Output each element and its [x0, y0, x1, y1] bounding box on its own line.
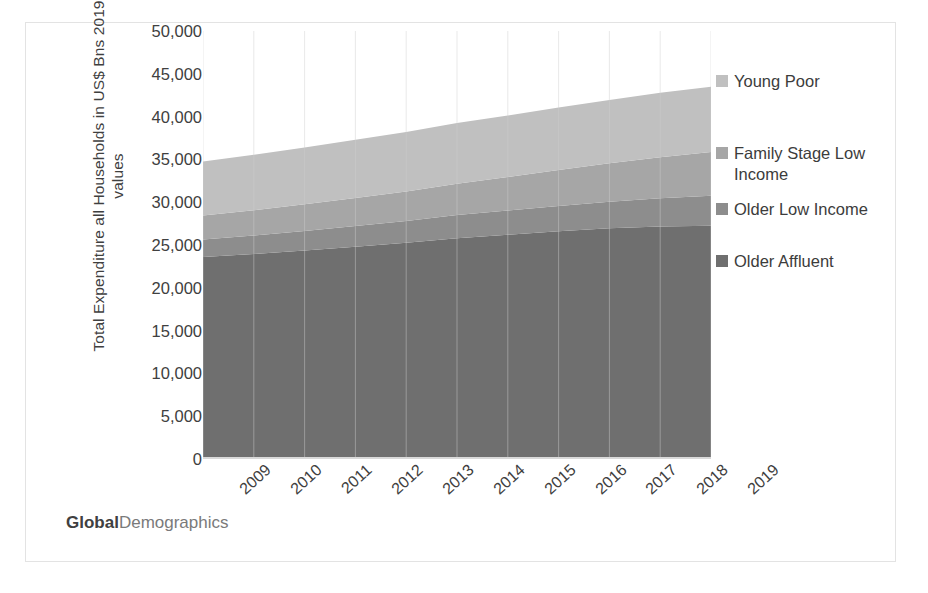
x-axis-tick-label: 2012: [389, 461, 427, 498]
y-axis-tick-label: 40,000: [84, 107, 202, 126]
legend-color-swatch-icon: [716, 255, 728, 267]
x-axis-tick-label: 2016: [592, 461, 630, 498]
legend-item-label: Young Poor: [734, 71, 820, 92]
x-axis-tick-label: 2019: [744, 461, 782, 498]
plot-area: [203, 31, 711, 459]
legend-item-label: Family Stage Low Income: [734, 143, 865, 185]
y-axis-tick-label: 30,000: [84, 193, 202, 212]
legend-item[interactable]: Family Stage Low Income: [716, 143, 896, 185]
x-axis-tick-label: 2015: [541, 461, 579, 498]
y-axis-tick-label: 35,000: [84, 150, 202, 169]
watermark-light-text: Demographics: [119, 513, 229, 532]
y-axis-tick-labels: 50,00045,00040,00035,00030,00025,00020,0…: [84, 23, 202, 563]
x-axis-tick-label: 2014: [490, 461, 528, 498]
legend-color-swatch-icon: [716, 147, 728, 159]
legend-item-label: Older Low Income: [734, 199, 868, 220]
legend-color-swatch-icon: [716, 75, 728, 87]
y-axis-tick-label: 25,000: [84, 236, 202, 255]
legend-item[interactable]: Older Low Income: [716, 199, 896, 220]
legend-item[interactable]: Young Poor: [716, 71, 896, 92]
x-axis-line: [203, 457, 711, 459]
x-axis-tick-labels: 2009201020112012201320142015201620172018…: [203, 461, 723, 521]
watermark-globaldemographics: GlobalDemographics: [66, 513, 229, 533]
y-axis-tick-label: 15,000: [84, 321, 202, 340]
legend-item[interactable]: Older Affluent: [716, 251, 896, 272]
y-axis-tick-label: 50,000: [84, 22, 202, 41]
legend-color-swatch-icon: [716, 203, 728, 215]
chart-frame: Total Expenditure all Households in US$ …: [25, 22, 896, 562]
stacked-area-svg: [203, 31, 711, 459]
x-axis-tick-label: 2010: [287, 461, 325, 498]
x-axis-tick-label: 2009: [236, 461, 274, 498]
legend-item-label: Older Affluent: [734, 251, 834, 272]
y-axis-tick-label: 5,000: [84, 407, 202, 426]
x-axis-tick-label: 2018: [693, 461, 731, 498]
watermark-bold-text: Global: [66, 513, 119, 532]
x-axis-tick-label: 2013: [439, 461, 477, 498]
y-axis-tick-label: 45,000: [84, 64, 202, 83]
y-axis-tick-label: 20,000: [84, 278, 202, 297]
x-axis-tick-label: 2017: [643, 461, 681, 498]
y-axis-tick-label: 10,000: [84, 364, 202, 383]
y-axis-tick-label: 0: [84, 450, 202, 469]
x-axis-tick-label: 2011: [337, 461, 375, 497]
